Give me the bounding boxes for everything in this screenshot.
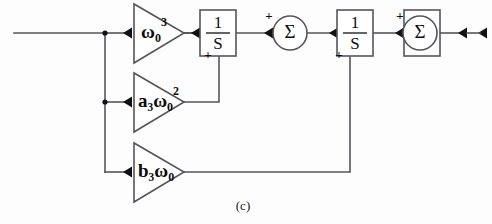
- integrator-1-denominator: S: [213, 34, 222, 53]
- junction-dot-middle: [102, 99, 107, 104]
- arrowhead-gain3-input: [123, 167, 132, 178]
- arrowhead-integrator1-input: [191, 28, 200, 39]
- gain3-feedforward-wire: [184, 57, 350, 172]
- summing-junction-2-symbol: Σ: [414, 21, 425, 42]
- block-diagram-figure: ω03 a₃ω02 b₃ω0 1 S 1 S: [0, 0, 492, 224]
- gain-block-a3-omega-squared[interactable]: a₃ω02: [134, 73, 184, 132]
- integrator-1-numerator: 1: [214, 13, 223, 32]
- summing-junction-1-bottom-sign: +: [204, 47, 211, 62]
- arrowhead-summer1-left-input: [264, 28, 273, 39]
- summing-junction-2-left-sign: +: [396, 8, 403, 23]
- arrowhead-gain1-input: [123, 28, 132, 39]
- integrator-2-denominator: S: [350, 34, 359, 53]
- gain-block-b3-omega[interactable]: b₃ω0: [134, 143, 184, 202]
- integrator-2-numerator: 1: [351, 13, 360, 32]
- figure-caption: (c): [236, 198, 250, 213]
- summing-junction-1-symbol: Σ: [284, 21, 295, 42]
- arrowhead-gain2-input: [123, 97, 132, 108]
- arrowhead-integrator3-input: [458, 28, 467, 39]
- block-diagram-canvas: ω03 a₃ω02 b₃ω0 1 S 1 S: [0, 0, 492, 224]
- gain2-feedforward-wire: [184, 57, 219, 102]
- summing-junction-2-bottom-sign: +: [335, 47, 342, 62]
- summing-junction-1-left-sign: +: [265, 8, 272, 23]
- gain-block-omega-cubed[interactable]: ω03: [134, 4, 184, 63]
- junction-dot-top: [102, 30, 107, 35]
